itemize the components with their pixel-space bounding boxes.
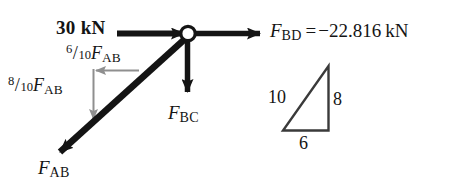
f-ab-y-component-label: 8/10FAB (8, 75, 63, 96)
f-ab-symbol: F (38, 157, 50, 178)
f-ab-x-symbol: F (91, 43, 102, 63)
f-ab-y-symbol: F (33, 75, 44, 95)
free-body-diagram-figure: 30 kN 6/10FAB 8/10FAB FAB FBC FBD=−22.81… (0, 0, 452, 196)
f-bd-value: −22.816 (318, 20, 381, 41)
slope-reference-triangle (283, 66, 329, 131)
applied-load-label: 30 kN (56, 18, 106, 37)
f-bd-label: FBD=−22.816kN (270, 21, 408, 42)
triangle-vertical-label: 8 (333, 90, 342, 108)
f-bd-equals: = (302, 20, 319, 41)
f-ab-x-subscript: AB (102, 50, 121, 65)
triangle-base-label: 6 (299, 134, 308, 152)
f-bd-unit: kN (381, 20, 408, 41)
f-ab-y-subscript: AB (44, 82, 63, 97)
f-bc-label: FBC (168, 103, 199, 124)
f-ab-y-denominator: 10 (20, 80, 33, 94)
f-bd-symbol: F (270, 20, 282, 41)
f-ab-x-denominator: 10 (78, 48, 91, 62)
f-bd-subscript: BD (282, 27, 302, 43)
f-ab-x-component-label: 6/10FAB (66, 43, 121, 64)
triangle-hypotenuse-label: 10 (268, 88, 286, 106)
f-ab-subscript: AB (50, 164, 70, 180)
f-ab-label: FAB (38, 158, 70, 179)
f-bc-subscript: BC (180, 109, 199, 125)
f-bc-symbol: F (168, 102, 180, 123)
pin-joint-circle (181, 26, 195, 40)
